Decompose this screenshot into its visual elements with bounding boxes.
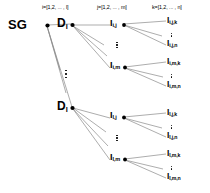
node-label-leaf-imk: Ii,m,k bbox=[167, 57, 180, 65]
edge-ilm-to-n bbox=[125, 160, 166, 178]
node-label-leaf-ljn: Il,j,n bbox=[167, 131, 177, 139]
edge-ilj-to-k bbox=[124, 113, 166, 117]
node-label-leaf-ljn-sub: l,j,n bbox=[169, 134, 177, 140]
node-label-leaf-lmn-sub: l,m,n bbox=[169, 175, 180, 181]
edge-iim-fan bbox=[125, 68, 163, 77]
node-label-leaf-imk-sub: i,m,k bbox=[169, 60, 180, 66]
ellipsis-i-bottom bbox=[114, 133, 120, 141]
ellipsis-leaf-1 bbox=[169, 31, 174, 37]
column-header-j: j=[1,2, ... , m] bbox=[97, 4, 127, 10]
node-label-d-l-base: D bbox=[57, 99, 66, 113]
edge-iim-to-n bbox=[125, 68, 166, 86]
ellipsis-leaf-2 bbox=[169, 72, 174, 78]
edge-dl-fan-1 bbox=[73, 108, 106, 132]
node-label-d-i-base: D bbox=[57, 16, 66, 30]
node-label-leaf-ijk-sub: i,j,k bbox=[169, 19, 177, 25]
edge-sg-fan-2 bbox=[47, 26, 66, 93]
edge-iim-to-k bbox=[125, 62, 166, 67]
ellipsis-leaf-4 bbox=[169, 164, 174, 170]
node-label-leaf-ljk-sub: l,j,k bbox=[169, 111, 177, 117]
node-dot-iij bbox=[122, 23, 126, 27]
node-label-i-ij: Ii,j bbox=[110, 19, 117, 28]
node-dot-ilj bbox=[122, 116, 126, 120]
node-label-d-l-sub: l bbox=[66, 105, 68, 114]
diagram-canvas: i=[1,2, ... , l] j=[1,2, ... , m] k=[1,2… bbox=[0, 0, 210, 193]
node-label-i-ij-sub: i,j bbox=[113, 22, 117, 28]
ellipsis-leaf-3 bbox=[169, 123, 174, 129]
edge-iij-to-k bbox=[124, 21, 166, 24]
node-dot-di bbox=[70, 23, 74, 27]
node-label-sg-text: SG bbox=[8, 17, 27, 32]
edge-di-to-iim bbox=[73, 26, 110, 68]
node-label-leaf-lmk-sub: l,m,k bbox=[169, 152, 180, 158]
node-label-leaf-ijn: Ii,j,n bbox=[167, 39, 177, 47]
node-label-i-lm-sub: l,m bbox=[113, 156, 120, 162]
ellipsis-d-column bbox=[63, 68, 69, 78]
node-label-d-i-sub: i bbox=[66, 22, 68, 31]
node-dot-iim bbox=[123, 66, 127, 70]
node-label-leaf-ljk: Il,j,k bbox=[167, 108, 177, 116]
diagram-edges bbox=[0, 0, 210, 193]
ellipsis-i-top bbox=[114, 40, 120, 48]
node-label-leaf-lmk: Il,m,k bbox=[167, 149, 180, 157]
edge-ilm-fan bbox=[125, 160, 163, 169]
node-label-d-i: Di bbox=[57, 17, 68, 29]
edge-di-fan-2 bbox=[73, 26, 107, 56]
node-label-i-im-sub: i,m bbox=[113, 64, 120, 70]
node-label-leaf-ijk: Ii,j,k bbox=[167, 16, 177, 24]
edge-ilm-to-k bbox=[125, 154, 166, 159]
node-dot-dl bbox=[70, 106, 74, 110]
node-label-leaf-ijn-sub: i,j,n bbox=[169, 42, 177, 48]
node-dot-ilm bbox=[123, 158, 127, 162]
node-label-i-lj-sub: l,j bbox=[113, 114, 117, 120]
column-header-i: i=[1,2, ... , l] bbox=[42, 4, 68, 10]
node-label-i-lj: Il,j bbox=[110, 111, 117, 120]
node-label-leaf-imn-sub: i,m,n bbox=[169, 83, 180, 89]
node-label-i-im: Ii,m bbox=[110, 61, 120, 70]
node-label-sg: SG bbox=[8, 18, 27, 31]
column-header-k: k=[1,2, ... , n] bbox=[152, 4, 182, 10]
node-label-leaf-imn: Ii,m,n bbox=[167, 80, 180, 88]
edge-di-fan-1 bbox=[73, 26, 104, 45]
edge-dl-fan-2 bbox=[73, 109, 108, 146]
node-dot-sg bbox=[45, 23, 49, 27]
node-label-leaf-lmn: Il,m,n bbox=[167, 172, 180, 180]
node-label-d-l: Dl bbox=[57, 100, 68, 112]
node-label-i-lm: Il,m bbox=[110, 153, 120, 162]
